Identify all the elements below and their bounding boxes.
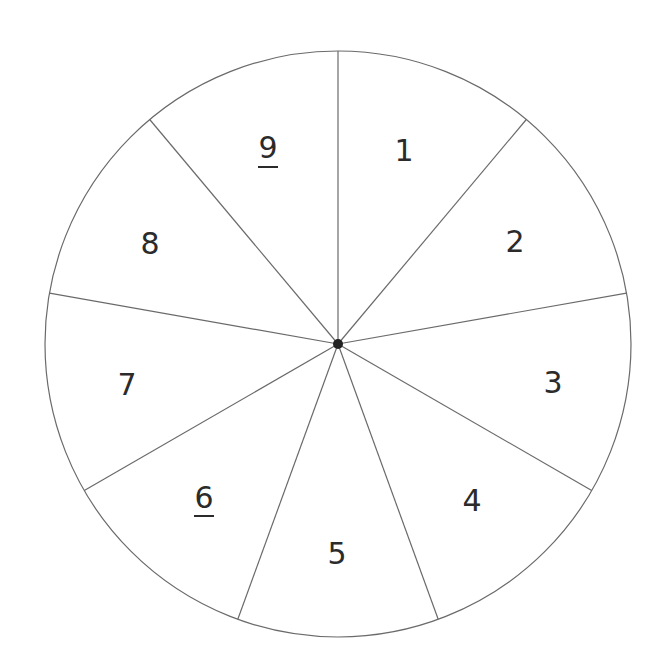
sector-label-2: 2 bbox=[505, 224, 524, 259]
sector-label-8: 8 bbox=[140, 226, 159, 261]
sector-label-3: 3 bbox=[543, 365, 562, 400]
sector-label-7: 7 bbox=[117, 367, 136, 402]
spinner-wheel: 1 2 3 4 5 6 7 8 9 bbox=[0, 0, 669, 671]
sector-label-1: 1 bbox=[394, 133, 413, 168]
sector-label-4: 4 bbox=[462, 483, 481, 518]
sector-label-6: 6 bbox=[194, 480, 213, 515]
sector-label-9: 9 bbox=[258, 130, 277, 165]
sector-label-5: 5 bbox=[327, 536, 346, 571]
center-hub bbox=[333, 339, 343, 349]
